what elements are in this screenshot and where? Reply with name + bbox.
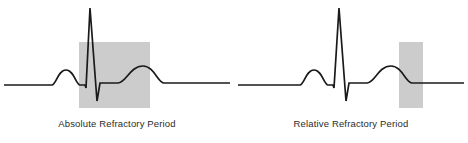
caption-absolute-refractory-period: Absolute Refractory Period [0, 118, 234, 129]
ecg-trace-absolute [0, 0, 234, 118]
ecg-waveform-path-relative [238, 8, 464, 101]
caption-relative-refractory-period: Relative Refractory Period [234, 118, 468, 129]
refractory-period-figure: Absolute Refractory Period Relative Refr… [0, 0, 468, 143]
relative-refractory-shading [399, 42, 423, 108]
panel-relative-refractory: Relative Refractory Period [234, 0, 468, 143]
panel-absolute-refractory: Absolute Refractory Period [0, 0, 234, 143]
absolute-refractory-shading [79, 42, 150, 108]
ecg-trace-relative [234, 0, 468, 118]
